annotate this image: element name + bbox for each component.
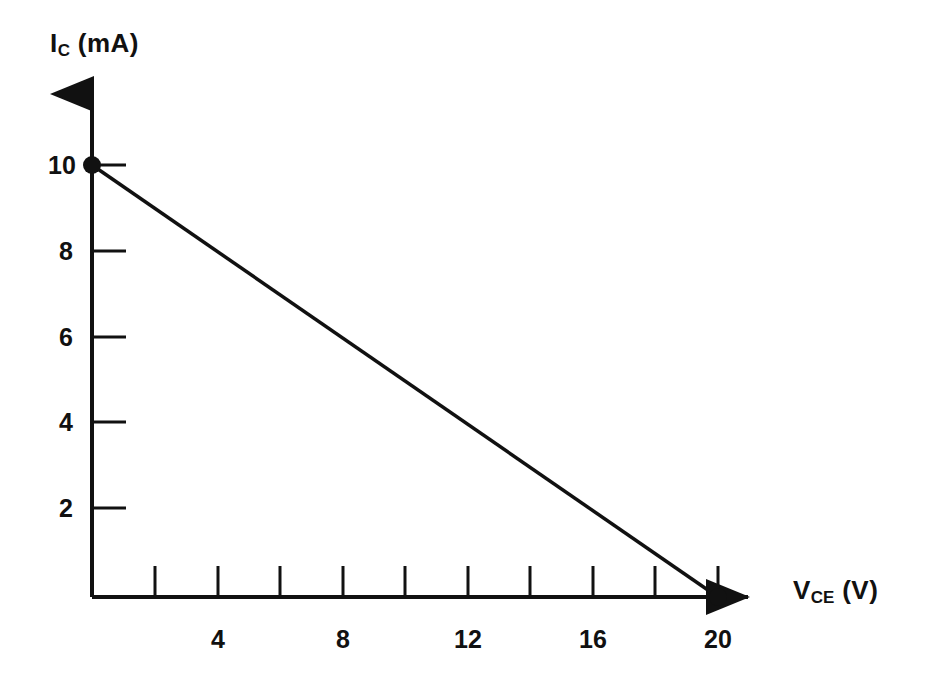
- x-tick-label-20: 20: [704, 625, 732, 654]
- x-axis-title: VCE (V): [793, 575, 878, 606]
- y-tick-label-8: 8: [59, 237, 73, 266]
- x-tick-label-16: 16: [579, 625, 607, 654]
- x-axis-title-subscript: CE: [811, 588, 835, 607]
- y-axis-title: IC (mA): [50, 28, 139, 59]
- y-tick-label-6: 6: [59, 323, 73, 352]
- data-point-saturation: [83, 156, 101, 174]
- load-line-series: [92, 165, 718, 597]
- x-axis-ticks: [92, 566, 718, 597]
- load-line-plot: [0, 0, 926, 684]
- y-axis-ticks: [92, 165, 126, 508]
- y-tick-label-10: 10: [48, 151, 76, 180]
- y-tick-label-2: 2: [59, 494, 73, 523]
- x-tick-label-8: 8: [336, 625, 350, 654]
- chart-page: IC (mA) VCE (V) 10 8 6 4 2 4 8 12 16 20: [0, 0, 926, 684]
- y-axis-title-unit: (mA): [70, 28, 139, 58]
- x-tick-label-12: 12: [454, 625, 482, 654]
- x-axis-title-symbol: V: [793, 575, 811, 605]
- y-tick-label-4: 4: [59, 408, 73, 437]
- y-axis-title-subscript: C: [58, 41, 70, 60]
- y-axis-title-symbol: I: [50, 28, 58, 58]
- x-tick-label-4: 4: [211, 625, 225, 654]
- data-point-cutoff: [709, 588, 727, 606]
- x-axis-title-unit: (V): [834, 575, 878, 605]
